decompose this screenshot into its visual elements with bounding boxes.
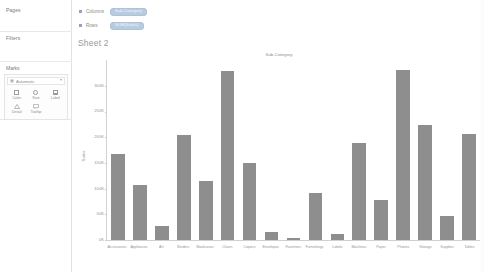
marks-button-color[interactable]: Color [7, 88, 26, 102]
x-axis-label: Tables [464, 245, 474, 250]
x-axis-tick[interactable]: Tables [458, 241, 480, 268]
bar[interactable] [396, 70, 410, 240]
marks-card-label: Marks [0, 62, 72, 74]
x-axis-tick[interactable]: Storage [414, 241, 436, 268]
bar-slot [195, 60, 217, 240]
mark-type-value: Automatic [16, 79, 60, 84]
columns-shelf-icon [78, 9, 83, 14]
size-icon [32, 89, 39, 96]
bar[interactable] [374, 200, 388, 240]
column-header-title: Sub-Category [78, 50, 480, 60]
bar[interactable] [462, 134, 476, 240]
x-axis-tick[interactable]: Accessories [106, 241, 128, 268]
x-axis-tick[interactable]: Bookcases [194, 241, 216, 268]
filters-shelf[interactable]: Filters [0, 32, 72, 62]
bar-slot [173, 60, 195, 240]
x-axis-tick[interactable]: Paper [370, 241, 392, 268]
columns-shelf[interactable]: Columns Sub-Category [78, 6, 480, 17]
marks-button-tooltip[interactable]: Tooltip [26, 102, 45, 116]
x-axis-label: Labels [332, 245, 342, 250]
bar-slot [283, 60, 305, 240]
marks-button-label[interactable]: Label [46, 88, 65, 102]
x-axis-label: Envelopes [263, 245, 279, 250]
marks-button-label-label: Label [51, 96, 60, 101]
marks-button-tooltip-label: Tooltip [31, 110, 42, 115]
x-axis-tick[interactable]: Art [150, 241, 172, 268]
bar-series [107, 60, 480, 240]
rows-shelf-label: Rows [86, 23, 110, 28]
color-icon [13, 89, 20, 96]
bar[interactable] [243, 163, 257, 240]
marks-button-size-label: Size [32, 96, 39, 101]
x-axis-tick[interactable]: Chairs [216, 241, 238, 268]
y-axis-tick: 100K [94, 186, 104, 190]
marks-button-size[interactable]: Size [26, 88, 45, 102]
x-axis-label: Appliances [130, 245, 147, 250]
tooltip-icon [32, 103, 39, 110]
marks-buttons: Color Size Label [7, 88, 65, 116]
bar[interactable] [199, 181, 213, 240]
viz-pane: Sub-Category Sales 0K50K100K150K200K250K… [78, 50, 480, 268]
bar[interactable] [221, 71, 235, 240]
bar-slot [217, 60, 239, 240]
rows-shelf[interactable]: Rows SUM(Sales) [78, 20, 480, 31]
x-axis-label: Storage [419, 245, 431, 250]
x-axis-label: Chairs [222, 245, 232, 250]
bar-slot [326, 60, 348, 240]
x-axis-tick[interactable]: Envelopes [260, 241, 282, 268]
worksheet-main: Columns Sub-Category Rows SUM(Sales) She… [72, 0, 484, 272]
bar[interactable] [133, 185, 147, 240]
bar[interactable] [111, 154, 125, 240]
x-axis-tick[interactable]: Machines [348, 241, 370, 268]
mark-type-icon: ▦ [10, 79, 14, 83]
tableau-worksheet-window: Pages Filters Marks ▦ Automatic ▾ Color [0, 0, 484, 272]
columns-shelf-label: Columns [86, 9, 110, 14]
bar[interactable] [352, 143, 366, 240]
bar[interactable] [440, 216, 454, 240]
bar-slot [414, 60, 436, 240]
y-axis-tick: 200K [94, 135, 104, 139]
x-axis-tick[interactable]: Phones [392, 241, 414, 268]
bar[interactable] [265, 232, 279, 240]
bar-slot [458, 60, 480, 240]
x-axis-tick[interactable]: Furnishings [304, 241, 326, 268]
x-axis-label: Binders [177, 245, 189, 250]
x-axis-tick[interactable]: Binders [172, 241, 194, 268]
bar[interactable] [418, 125, 432, 240]
x-axis-tick[interactable]: Fasteners [282, 241, 304, 268]
x-axis-tick[interactable]: Labels [326, 241, 348, 268]
marks-card: Marks ▦ Automatic ▾ Color Size [0, 62, 72, 120]
x-axis-label: Machines [351, 245, 366, 250]
marks-button-color-label: Color [12, 96, 21, 101]
bar[interactable] [155, 226, 169, 240]
y-axis-tick: 50K [97, 212, 104, 216]
pages-shelf[interactable]: Pages [0, 4, 72, 32]
bar[interactable] [309, 193, 323, 240]
bar-slot [151, 60, 173, 240]
sheet-title[interactable]: Sheet 2 [78, 38, 109, 48]
label-icon [52, 89, 59, 96]
x-axis-label: Supplies [440, 245, 453, 250]
marks-button-detail[interactable]: Detail [7, 102, 26, 116]
x-axis: AccessoriesAppliancesArtBindersBookcases… [106, 240, 480, 268]
bar-slot [107, 60, 129, 240]
y-axis-tick: 0K [99, 238, 104, 242]
bar-slot [392, 60, 414, 240]
x-axis-tick[interactable]: Appliances [128, 241, 150, 268]
marks-sidebar: Pages Filters Marks ▦ Automatic ▾ Color [0, 0, 72, 272]
x-axis-tick[interactable]: Supplies [436, 241, 458, 268]
mark-type-dropdown[interactable]: ▦ Automatic ▾ [7, 77, 65, 85]
rows-shelf-icon [78, 23, 83, 28]
x-axis-label: Accessories [108, 245, 127, 250]
x-axis-tick[interactable]: Copiers [238, 241, 260, 268]
marks-card-body: ▦ Automatic ▾ Color Size Lab [4, 74, 68, 120]
bar-slot [348, 60, 370, 240]
detail-icon [13, 103, 20, 110]
pill-sum-sales[interactable]: SUM(Sales) [110, 22, 144, 30]
x-axis-label: Paper [376, 245, 385, 250]
x-axis-label: Fasteners [285, 245, 301, 250]
x-axis-label: Phones [397, 245, 409, 250]
bar[interactable] [177, 135, 191, 240]
chevron-down-icon: ▾ [60, 79, 62, 83]
pill-sub-category[interactable]: Sub-Category [110, 8, 147, 16]
